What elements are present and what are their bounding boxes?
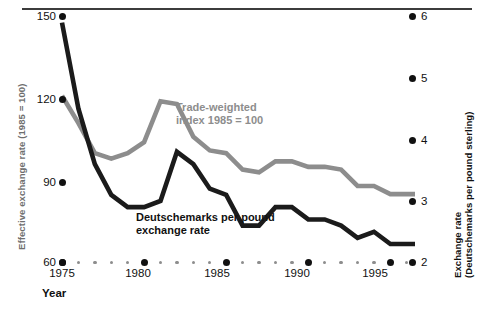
left-axis-title: Effective exchange rate (1985 = 100) (16, 83, 27, 250)
x-axis-tick-label-1990: 1990 (274, 267, 320, 279)
left-axis-tick-dot-150 (59, 13, 66, 20)
left-axis-tick-label-150: 150 (30, 10, 56, 22)
annotation-deutschemarks-per-pound: Deutschemarks per pound exchange rate (136, 211, 275, 237)
annotation-deutschemark-line1: Deutschemarks per pound (136, 211, 275, 223)
x-axis-tick-label-1975: 1975 (39, 267, 85, 279)
annotation-trade-weighted-index: Trade-weighted index 1985 = 100 (176, 101, 263, 127)
annotation-deutschemark-line2: exchange rate (136, 224, 275, 237)
right-axis-tick-label-2: 2 (421, 256, 447, 268)
x-axis-tick-dot-1992 (339, 261, 342, 264)
right-axis-tick-label-5: 5 (421, 72, 447, 84)
right-axis-tick-dot-4 (409, 137, 416, 144)
annotation-trade-weighted-line1: Trade-weighted (176, 101, 257, 113)
x-axis-tick-label-1985: 1985 (194, 267, 240, 279)
annotation-trade-weighted-line2: index 1985 = 100 (176, 114, 263, 127)
right-axis-title: Exchange rate (Deutschemarks per pound s… (452, 111, 474, 278)
right-axis-tick-dot-2 (409, 259, 416, 266)
x-axis-tick-dot-1975 (59, 259, 66, 266)
left-axis-tick-dot-120 (59, 96, 66, 103)
right-axis-title-line1: Exchange rate (452, 212, 463, 278)
left-axis-tick-label-90: 90 (30, 176, 56, 188)
right-axis-tick-dot-3 (409, 198, 416, 205)
x-axis-tick-dot-1987 (257, 261, 260, 264)
right-axis-tick-dot-5 (409, 75, 416, 82)
x-axis-tick-dot-1995 (387, 259, 394, 266)
x-axis-tick-dot-1977 (93, 261, 96, 264)
x-axis-title: Year (42, 287, 66, 299)
right-axis-tick-label-6: 6 (421, 10, 447, 22)
right-axis-tick-label-4: 4 (421, 134, 447, 146)
x-axis-tick-dot-1985 (223, 259, 230, 266)
x-axis-tick-dot-1982 (175, 261, 178, 264)
x-axis-tick-dot-1989 (290, 261, 293, 264)
x-axis-tick-dot-1978 (110, 261, 113, 264)
x-axis-tick-label-1980: 1980 (115, 267, 161, 279)
x-axis-tick-dot-1994 (372, 261, 375, 264)
left-axis-tick-dot-90 (59, 179, 66, 186)
right-axis-tick-dot-6 (409, 13, 416, 20)
x-axis-tick-label-1995: 1995 (352, 267, 398, 279)
right-axis-title-line2: (Deutschemarks per pound sterling) (463, 111, 474, 278)
left-axis-tick-label-120: 120 (30, 93, 56, 105)
x-axis-tick-dot-1980 (141, 259, 148, 266)
x-axis-tick-dot-1990 (305, 259, 312, 266)
right-axis-tick-label-3: 3 (421, 195, 447, 207)
chart-canvas: Effective exchange rate (1985 = 100) 150… (0, 0, 480, 318)
